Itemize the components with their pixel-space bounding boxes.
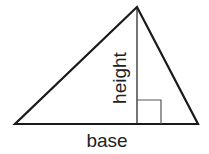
right-angle-marker [137, 100, 161, 124]
triangle [15, 7, 198, 124]
triangle-diagram: height base [0, 0, 209, 154]
height-label: height [109, 51, 130, 103]
base-label: base [86, 130, 127, 151]
